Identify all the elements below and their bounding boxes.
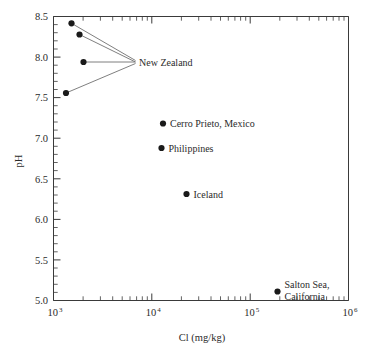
data-point-philippines[interactable] — [158, 145, 164, 151]
label-philippines: Philippines — [169, 143, 214, 154]
y-tick-label-8-5: 8.5 — [35, 11, 48, 22]
plot-frame — [54, 17, 349, 301]
y-tick-label-5-0: 5.0 — [35, 295, 48, 306]
x-tick-exponent-1e6: 6 — [354, 306, 358, 314]
x-tick-label-1e3: 10 3 — [48, 306, 64, 319]
x-axis-tick-labels: 10 3 10 4 10 5 10 6 — [48, 306, 359, 319]
x-tick-label-1e4: 10 4 — [146, 306, 162, 319]
label-salton-sea-line1: Salton Sea, — [285, 279, 330, 290]
y-axis-title: pH — [13, 154, 24, 167]
data-point-cerro-prieto[interactable] — [160, 120, 166, 126]
label-new-zealand: New Zealand — [139, 57, 193, 68]
y-axis-ticks — [54, 17, 61, 301]
data-point-salton-sea[interactable] — [274, 288, 280, 294]
x-tick-exponent-1e4: 4 — [157, 306, 161, 314]
x-tick-base-1e3: 10 — [48, 307, 59, 318]
x-tick-label-1e5: 10 5 — [244, 306, 260, 319]
data-point-new-zealand-4[interactable] — [63, 90, 69, 96]
chart-figure: 8.5 8.0 7.5 7.0 6.5 6.0 5.5 5.0 10 3 10 … — [0, 0, 368, 361]
point-labels: New Zealand Cerro Prieto, Mexico Philipp… — [139, 57, 330, 302]
scatter-plot: 8.5 8.0 7.5 7.0 6.5 6.0 5.5 5.0 10 3 10 … — [0, 0, 368, 361]
x-tick-base-1e5: 10 — [244, 307, 255, 318]
x-tick-label-1e6: 10 6 — [343, 306, 359, 319]
y-axis-tick-labels: 8.5 8.0 7.5 7.0 6.5 6.0 5.5 5.0 — [35, 11, 48, 306]
y-tick-label-7-5: 7.5 — [35, 92, 48, 103]
x-tick-base-1e4: 10 — [146, 307, 157, 318]
y-tick-label-7-0: 7.0 — [35, 133, 48, 144]
data-point-new-zealand-1[interactable] — [68, 20, 74, 26]
x-axis-title: Cl (mg/kg) — [179, 332, 226, 344]
data-point-new-zealand-3[interactable] — [80, 59, 86, 65]
data-point-new-zealand-2[interactable] — [76, 31, 82, 37]
x-tick-base-1e6: 10 — [343, 307, 354, 318]
x-tick-exponent-1e5: 5 — [256, 306, 260, 314]
x-tick-exponent-1e3: 3 — [59, 306, 63, 314]
y-tick-label-6-5: 6.5 — [35, 174, 48, 185]
x-axis-ticks-top — [54, 17, 349, 24]
y-tick-label-8-0: 8.0 — [35, 52, 48, 63]
y-tick-label-6-0: 6.0 — [35, 214, 48, 225]
data-point-iceland[interactable] — [183, 191, 189, 197]
label-cerro-prieto-mexico: Cerro Prieto, Mexico — [170, 118, 255, 129]
label-salton-sea-line2: California — [285, 291, 326, 302]
y-tick-label-5-5: 5.5 — [35, 255, 48, 266]
label-iceland: Iceland — [194, 189, 223, 200]
new-zealand-leader-lines — [66, 23, 136, 93]
